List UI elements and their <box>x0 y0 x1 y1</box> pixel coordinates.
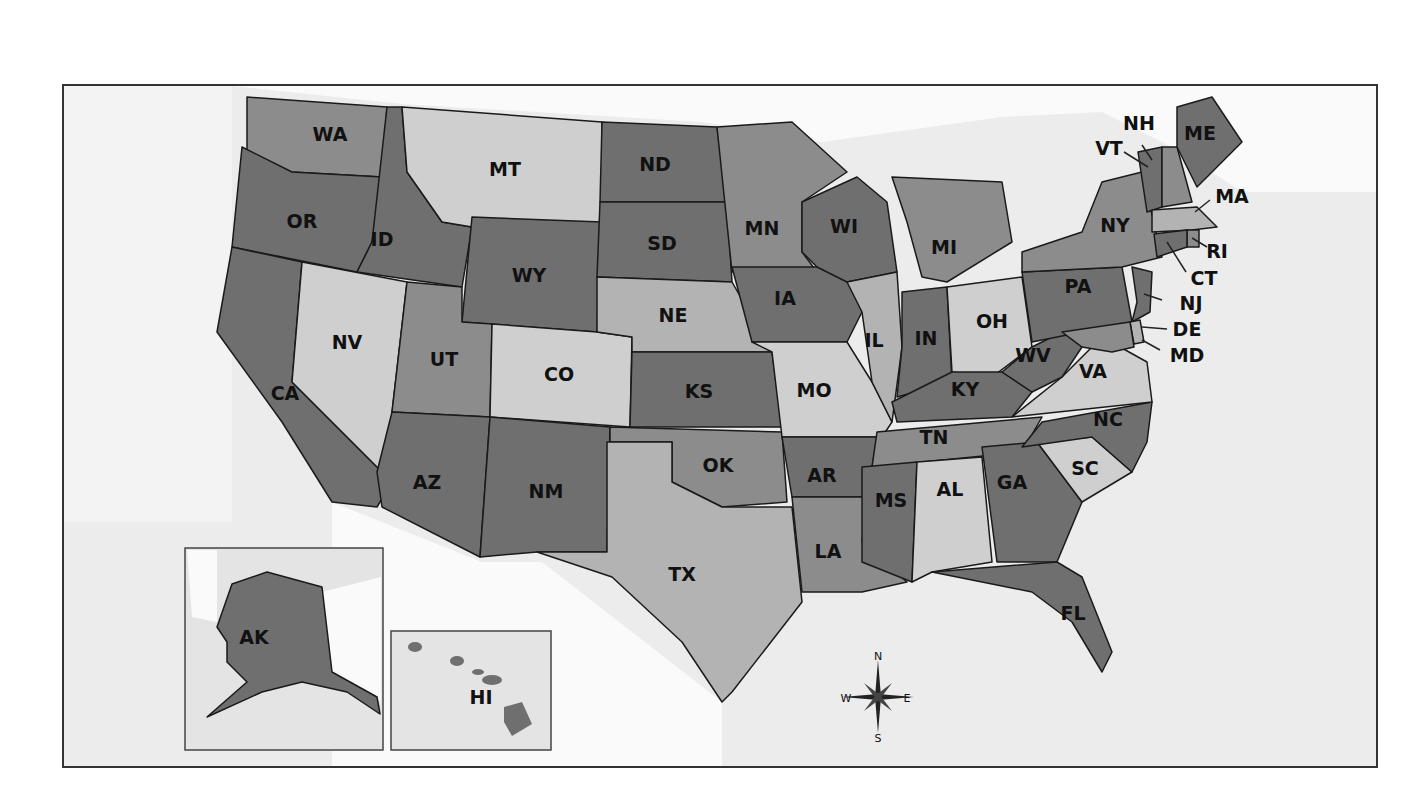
state-MS[interactable] <box>862 462 917 582</box>
label-WY: WY <box>512 264 547 286</box>
label-NV: NV <box>332 331 363 353</box>
pacific-water <box>64 86 232 522</box>
label-TN: TN <box>920 426 949 448</box>
label-IN: IN <box>915 327 938 349</box>
label-UT: UT <box>430 348 458 370</box>
label-MO: MO <box>796 379 831 401</box>
label-ND: ND <box>639 153 671 175</box>
us-map: WA OR CA ID NV MT WY UT AZ CO NM ND SD N… <box>64 86 1376 766</box>
state-NJ[interactable] <box>1132 267 1152 322</box>
label-MI: MI <box>931 236 957 258</box>
compass-rose-icon: N S E W <box>841 650 914 745</box>
label-NH: NH <box>1123 112 1155 134</box>
label-AR: AR <box>807 464 837 486</box>
label-CO: CO <box>544 363 574 385</box>
compass-west: W <box>841 692 852 705</box>
label-FL: FL <box>1060 602 1085 624</box>
label-AK: AK <box>239 626 270 648</box>
label-PA: PA <box>1065 275 1092 297</box>
map-frame: WA OR CA ID NV MT WY UT AZ CO NM ND SD N… <box>62 84 1378 768</box>
label-LA: LA <box>815 540 842 562</box>
label-IL: IL <box>864 329 883 351</box>
label-VA: VA <box>1079 360 1107 382</box>
label-WI: WI <box>830 215 858 237</box>
label-CT: CT <box>1191 267 1218 289</box>
state-MI[interactable] <box>892 177 1012 282</box>
label-MA: MA <box>1215 185 1249 207</box>
label-WV: WV <box>1015 344 1051 366</box>
label-MD: MD <box>1170 344 1205 366</box>
state-AL[interactable] <box>912 457 992 582</box>
alaska-inset: AK <box>185 548 383 750</box>
label-CA: CA <box>271 382 300 404</box>
state-NY[interactable] <box>1022 172 1162 272</box>
label-MS: MS <box>875 489 908 511</box>
label-IA: IA <box>774 287 796 309</box>
label-NM: NM <box>529 480 564 502</box>
label-MT: MT <box>489 158 521 180</box>
label-RI: RI <box>1206 240 1228 262</box>
label-WA: WA <box>313 123 348 145</box>
compass-north: N <box>874 650 882 663</box>
label-NE: NE <box>659 304 688 326</box>
label-VT: VT <box>1095 137 1123 159</box>
state-MA[interactable] <box>1152 207 1217 232</box>
label-DE: DE <box>1173 318 1202 340</box>
label-OH: OH <box>976 310 1008 332</box>
label-SD: SD <box>647 232 676 254</box>
hawaii-inset: HI <box>391 631 551 750</box>
label-NJ: NJ <box>1180 292 1203 314</box>
compass-south: S <box>875 732 882 745</box>
label-KY: KY <box>951 378 980 400</box>
label-MN: MN <box>745 217 780 239</box>
label-OR: OR <box>287 210 318 232</box>
label-HI: HI <box>470 686 493 708</box>
label-GA: GA <box>997 471 1028 493</box>
label-TX: TX <box>668 563 696 585</box>
label-SC: SC <box>1071 457 1099 479</box>
label-ID: ID <box>371 228 394 250</box>
label-NY: NY <box>1100 214 1130 236</box>
label-OK: OK <box>703 454 735 476</box>
label-KS: KS <box>685 380 713 402</box>
label-AZ: AZ <box>413 471 441 493</box>
label-NC: NC <box>1093 408 1123 430</box>
compass-east: E <box>904 692 911 705</box>
label-AL: AL <box>937 478 964 500</box>
label-ME: ME <box>1184 122 1216 144</box>
state-CT[interactable] <box>1154 230 1187 257</box>
